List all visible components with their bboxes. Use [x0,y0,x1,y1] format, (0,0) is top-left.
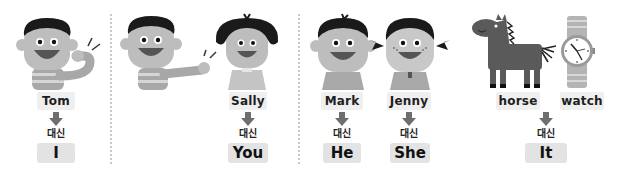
connector-text: 대신 [526,128,566,140]
noun-label-jenny: Jenny [387,92,431,110]
section-divider [298,14,300,164]
boy-pointing-at-sally-illustration [118,10,218,90]
connector-text: 대신 [389,128,429,140]
down-arrow-icon [49,112,63,126]
pronoun-you: You [228,143,268,163]
pronoun-i: I [37,143,75,163]
section-divider [110,14,112,164]
noun-label-watch: watch [560,92,604,110]
horse-illustration [472,14,556,90]
connector-text: 대신 [322,128,362,140]
noun-label-tom: Tom [37,92,75,110]
noun-label-mark: Mark [321,92,363,110]
down-arrow-icon [402,112,416,126]
connector-text: 대신 [36,128,76,140]
pronoun-it: It [525,143,567,163]
sally-illustration [212,12,282,90]
pronoun-he: He [323,143,361,163]
mark-illustration [308,12,378,90]
down-arrow-icon [539,112,553,126]
watch-illustration [560,16,596,88]
down-arrow-icon [241,112,255,126]
noun-label-horse: horse [496,92,540,110]
connector-text: 대신 [228,128,268,140]
pronoun-she: She [390,143,430,163]
noun-label-sally: Sally [229,92,267,110]
down-arrow-icon [335,112,349,126]
jenny-illustration [370,12,450,90]
tom-pointing-self-illustration [12,10,102,90]
